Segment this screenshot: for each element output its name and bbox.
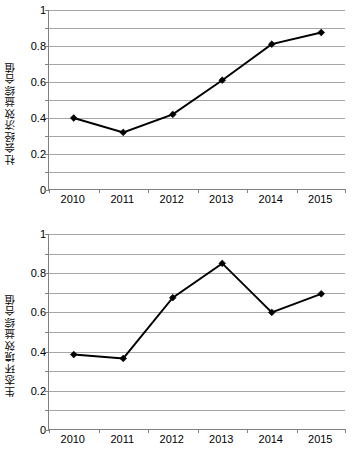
x-axis-ticklabel: 2013 [209, 434, 233, 445]
x-axis-ticklabel: 2015 [308, 194, 332, 205]
y-axis-ticklabel: 0.4 [31, 346, 46, 357]
y-axis-ticklabel: 0.2 [31, 149, 46, 160]
y-axis-ticklabel: 0.8 [31, 268, 46, 279]
y-axis-ticklabel: 0.8 [31, 41, 46, 52]
y-axis-title-bottom: 生态环境效益综合值 [0, 226, 20, 464]
y-axis-ticklabel: 0.2 [31, 385, 46, 396]
data-series [49, 10, 346, 190]
x-axis-ticklabel: 2011 [110, 434, 134, 445]
x-axis-ticklabel: 2012 [160, 434, 184, 445]
data-point-marker [318, 29, 325, 36]
data-point-marker [120, 129, 127, 136]
y-axis-ticklabel: 0.6 [31, 77, 46, 88]
chart-panel-socioeconomic: 社会经济效益综合值 10.80.60.40.20 201020112012201… [0, 0, 353, 225]
x-axis-ticklabel: 2014 [259, 434, 283, 445]
data-point-marker [70, 115, 77, 122]
dual-line-chart-figure: 社会经济效益综合值 10.80.60.40.20 201020112012201… [0, 0, 353, 464]
x-axis-ticklabel: 2013 [209, 194, 233, 205]
x-axis-ticklabel: 2014 [259, 194, 283, 205]
y-axis-title-top: 社会经济效益综合值 [0, 0, 20, 225]
plot-area-bottom [48, 234, 345, 430]
chart-panel-ecological: 生态环境效益综合值 10.80.60.40.20 201020112012201… [0, 226, 353, 464]
y-axis-ticklabel: 0.6 [31, 307, 46, 318]
x-axis-ticklabel: 2012 [160, 194, 184, 205]
x-axis-ticklabel: 2010 [61, 194, 85, 205]
y-axis-ticklabels-top: 10.80.60.40.20 [18, 10, 46, 190]
y-axis-ticklabels-bottom: 10.80.60.40.20 [18, 234, 46, 430]
data-point-marker [318, 290, 325, 297]
data-series [49, 234, 346, 430]
data-point-marker [70, 351, 77, 358]
series-line [74, 33, 322, 133]
y-axis-ticklabel: 0.4 [31, 113, 46, 124]
x-axis-ticklabel: 2010 [61, 434, 85, 445]
x-axis-ticklabel: 2015 [308, 434, 332, 445]
x-axis-ticklabel: 2011 [110, 194, 134, 205]
plot-area-top [48, 10, 345, 190]
series-line [74, 263, 322, 358]
